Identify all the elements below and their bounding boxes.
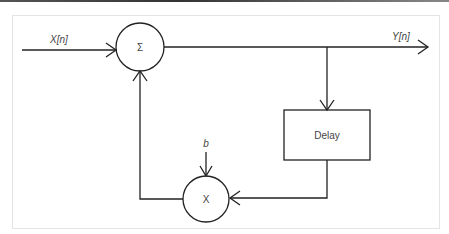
feedback-line	[140, 71, 183, 199]
output-label: Y[n]	[392, 31, 410, 42]
summer-symbol: Σ	[137, 42, 143, 53]
input-label: X[n]	[49, 34, 68, 45]
block-diagram: X[n] Y[n] Σ X b Delay	[0, 0, 449, 234]
coefficient-label: b	[203, 138, 209, 149]
delay-label: Delay	[314, 130, 340, 141]
delay-output-line	[230, 160, 327, 198]
multiplier-symbol: X	[203, 194, 210, 205]
